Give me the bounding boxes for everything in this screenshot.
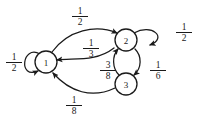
edge-label-1-to-2-numerator: 1 (72, 6, 88, 17)
edge-label-2-to-1-numerator: 1 (83, 38, 99, 49)
edge-label-3-to-2: 3 8 (100, 60, 116, 81)
edge-label-2-to-2-numerator: 1 (176, 22, 192, 33)
edge-label-2-to-1-denominator: 3 (83, 49, 99, 59)
edge-label-3-to-1: 1 8 (66, 95, 82, 116)
edge-label-1-to-2: 1 2 (72, 6, 88, 27)
edge-label-3-to-1-numerator: 1 (66, 95, 82, 106)
edge-2-to-2-selfloop (134, 30, 158, 45)
edge-label-2-to-1: 1 3 (83, 38, 99, 59)
node-1-label: 1 (44, 58, 49, 68)
edge-label-3-to-1-denominator: 8 (66, 106, 82, 116)
edge-label-3-to-2-numerator: 3 (100, 60, 116, 71)
edge-label-1-to-1-denominator: 2 (6, 63, 22, 73)
state-diagram-canvas: 1 2 3 1 2 1 2 1 3 3 8 1 6 1 2 1 8 (0, 0, 199, 124)
edge-label-2-to-2: 1 2 (176, 22, 192, 43)
edge-label-2-to-2-denominator: 2 (176, 33, 192, 43)
edge-label-1-to-1-numerator: 1 (6, 52, 22, 63)
edge-label-2-to-3-denominator: 6 (150, 71, 166, 81)
edge-2-to-3-arc (134, 49, 140, 75)
edge-label-3-to-2-denominator: 8 (100, 71, 116, 81)
edge-label-2-to-3: 1 6 (150, 60, 166, 81)
node-2-label: 2 (124, 36, 129, 46)
node-3-label: 3 (124, 80, 129, 90)
edge-label-1-to-1: 1 2 (6, 52, 22, 73)
edge-label-2-to-3-numerator: 1 (150, 60, 166, 71)
edge-label-1-to-2-denominator: 2 (72, 17, 88, 27)
